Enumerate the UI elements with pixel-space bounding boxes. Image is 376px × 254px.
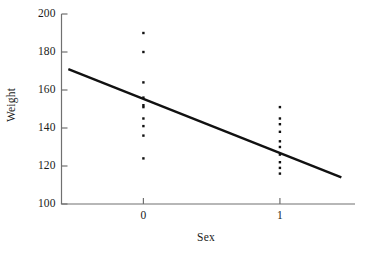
data-point [279, 153, 281, 155]
data-point [279, 123, 281, 125]
data-point [142, 125, 144, 127]
axes [61, 14, 355, 204]
regression-line [68, 69, 341, 177]
data-point [279, 117, 281, 119]
y-tick-label: 160 [24, 84, 56, 96]
data-point [279, 140, 281, 142]
data-point [142, 51, 144, 53]
data-point [142, 106, 144, 108]
data-point [279, 131, 281, 133]
data-point [142, 157, 144, 159]
regression-line-segment [68, 69, 341, 177]
data-point [279, 172, 281, 174]
data-points [142, 32, 281, 175]
data-point [279, 167, 281, 169]
x-axis-label: Sex [176, 231, 236, 243]
data-point [142, 81, 144, 83]
x-tick-label: 1 [268, 210, 292, 222]
data-point [279, 146, 281, 148]
data-point [142, 117, 144, 119]
plot-canvas [0, 0, 376, 254]
y-tick-label: 140 [24, 122, 56, 134]
data-point [142, 32, 144, 34]
y-tick-label: 120 [24, 160, 56, 172]
data-point [142, 134, 144, 136]
y-axis-label: Weight [5, 75, 17, 135]
data-point [142, 96, 144, 98]
y-tick-label: 100 [24, 198, 56, 210]
y-tick-label: 180 [24, 46, 56, 58]
data-point [279, 161, 281, 163]
scatter-plot-figure: 100 120 140 160 180 200 0 1 Weight Sex [0, 0, 376, 254]
y-tick-label: 200 [24, 8, 56, 20]
x-tick-label: 0 [131, 210, 155, 222]
data-point [279, 106, 281, 108]
